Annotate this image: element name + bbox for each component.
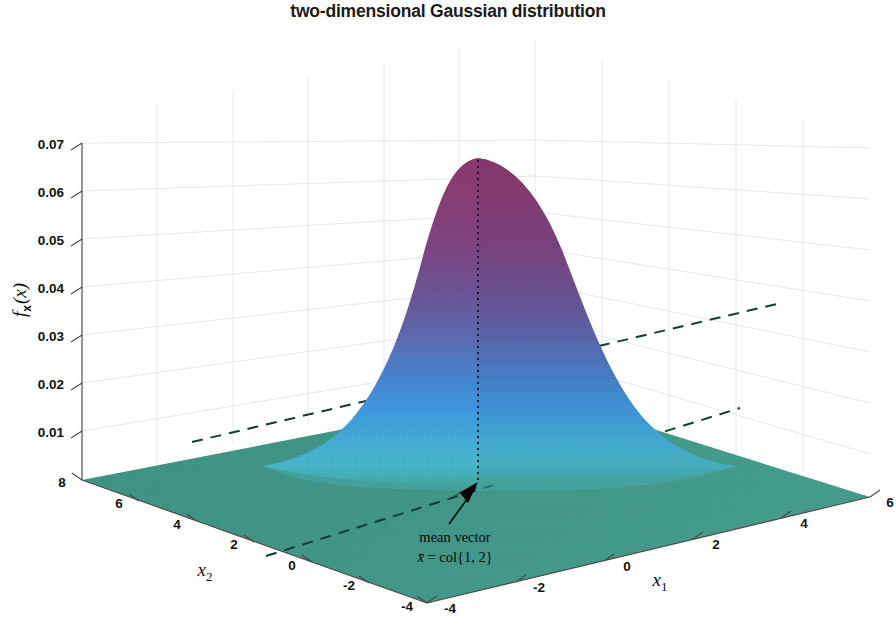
x2-tick-label: 2	[230, 537, 238, 552]
z-tick-label: 0.05	[38, 233, 65, 248]
z-tick-label: 0.03	[38, 329, 65, 344]
x1-tick-label: -2	[533, 580, 545, 595]
gaussian-surface-plot: 0.07 0.06 0.05 0.04 0.03 0.02 0.01 fx(x)	[0, 0, 896, 632]
x2-tick-label: 8	[58, 475, 66, 490]
mean-vector-label: mean vector	[419, 529, 490, 545]
z-tick-label: 0.07	[38, 137, 64, 152]
mean-vector-value: = col{1, 2}	[424, 549, 493, 565]
x2-tick-label: 6	[115, 496, 123, 511]
x2-tick-label: -2	[343, 578, 355, 593]
page-title: two-dimensional Gaussian distribution	[290, 1, 605, 21]
x2-axis-label-sub: 2	[206, 569, 213, 584]
z-tick-label: 0.02	[38, 377, 64, 392]
z-tick-label: 0.04	[38, 281, 65, 296]
x2-tick-label: 4	[173, 517, 181, 532]
mean-vector-equation: x̄ = col{1, 2}	[416, 549, 492, 565]
x1-tick-label: 6	[886, 495, 894, 510]
z-axis-label-arg: (x)	[9, 283, 31, 304]
x1-tick-label: 0	[623, 559, 631, 574]
x2-tick-label: -4	[401, 599, 413, 614]
x1-tick-label: 2	[712, 537, 720, 552]
z-tick-label: 0.06	[38, 185, 65, 200]
x1-axis-label-sub: 1	[661, 579, 668, 594]
z-axis-label-sub: x	[20, 305, 34, 312]
figure-container: 0.07 0.06 0.05 0.04 0.03 0.02 0.01 fx(x)	[0, 0, 896, 632]
x2-tick-label: 0	[288, 558, 296, 573]
x1-tick-label: 4	[800, 516, 808, 531]
z-tick-label: 0.01	[38, 425, 65, 440]
x1-tick-label: -4	[444, 601, 456, 616]
